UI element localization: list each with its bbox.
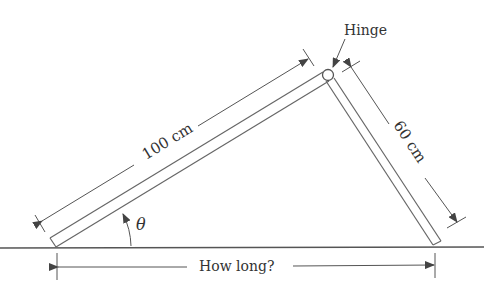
short-length-label: 60 cm — [390, 117, 431, 166]
ground-line — [0, 247, 484, 248]
angle-arc — [123, 214, 131, 246]
short-board — [326, 78, 441, 245]
long-length-label: 100 cm — [139, 119, 196, 163]
hinged-boards-diagram: Hinge 100 cm 60 cm θ How long? — [0, 0, 499, 296]
base-length-label: How long? — [199, 258, 274, 274]
angle-label: θ — [136, 215, 146, 234]
hinge-icon — [323, 70, 334, 81]
hinge-label: Hinge — [344, 22, 387, 38]
hinge-pointer — [333, 39, 345, 67]
long-board — [50, 72, 329, 247]
